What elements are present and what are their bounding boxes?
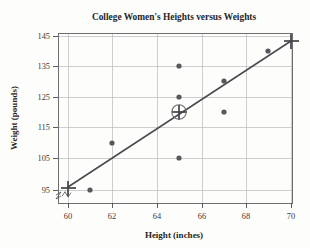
x-tick-label-60: 60 (64, 212, 72, 221)
y-axis-title: Weight (pounds) (9, 86, 19, 150)
data-point (265, 48, 270, 53)
y-tick-label-145: 145 (37, 32, 50, 41)
data-point (221, 78, 226, 83)
data-point (176, 63, 181, 68)
x-tick-label-62: 62 (108, 212, 116, 221)
data-point (176, 94, 181, 99)
x-tick-label-70: 70 (287, 212, 295, 221)
chart-canvas: College Women's Heights versus Weights (0, 0, 310, 248)
data-point (221, 109, 226, 114)
y-tick-label-105: 105 (37, 154, 50, 163)
x-tick-label-64: 64 (153, 212, 162, 221)
y-tick-label-135: 135 (37, 62, 50, 71)
y-tick-label-125: 125 (37, 93, 50, 102)
x-tick-label-66: 66 (198, 212, 206, 221)
scatter-plot-figure: College Women's Heights versus Weights (0, 0, 310, 248)
x-tick-label-68: 68 (242, 212, 250, 221)
x-axis-title: Height (inches) (145, 230, 203, 240)
data-point (176, 155, 181, 160)
y-tick-label-95: 95 (42, 186, 50, 195)
data-point (87, 187, 92, 192)
chart-title: College Women's Heights versus Weights (92, 12, 257, 22)
y-tick-label-115: 115 (38, 123, 50, 132)
data-point (109, 140, 114, 145)
